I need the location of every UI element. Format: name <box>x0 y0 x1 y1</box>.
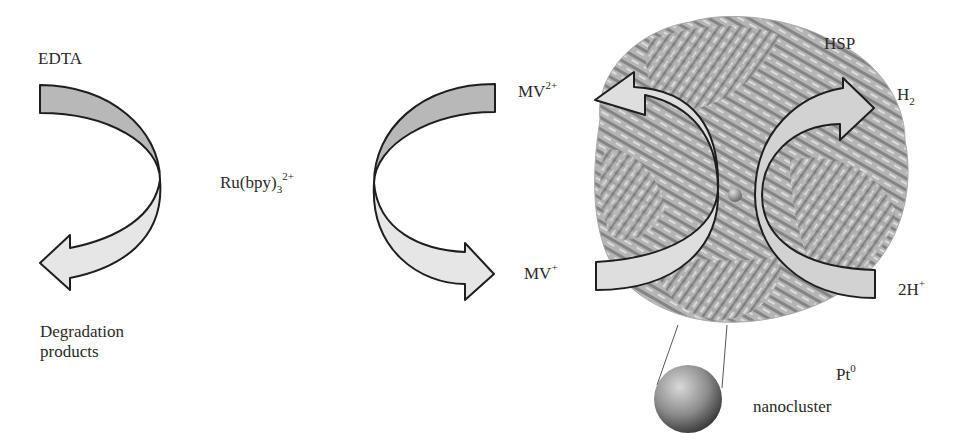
hsp-label: HSP <box>824 34 855 54</box>
pt-main: Pt <box>836 365 850 384</box>
mv2-label: MV2+ <box>518 82 557 102</box>
pt-superscript: 0 <box>850 362 856 374</box>
twoh-superscript: + <box>919 277 925 289</box>
edta-arrow <box>40 85 160 290</box>
degradation-line1: Degradation <box>40 322 124 341</box>
h2-subscript: 2 <box>909 95 915 107</box>
center-sphere <box>728 188 742 202</box>
h2-label: H2 <box>897 85 915 105</box>
nanocluster-label: nanocluster <box>753 397 831 417</box>
mv1-superscript: + <box>551 261 557 273</box>
reaction-diagram <box>0 0 967 448</box>
pt0-label: Pt0 <box>836 365 856 385</box>
mv1-label: MV+ <box>524 264 558 284</box>
degradation-products-label: Degradation products <box>40 322 124 361</box>
mv2-superscript: 2+ <box>545 79 557 91</box>
edta-label: EDTA <box>38 49 82 69</box>
ru-superscript: 2+ <box>282 170 294 182</box>
mv2-main: MV <box>518 82 545 101</box>
pt-nanocluster-sphere <box>654 365 722 433</box>
twoh-main: 2H <box>898 280 919 299</box>
mv1-main: MV <box>524 264 551 283</box>
two-h-plus-label: 2H+ <box>898 280 925 300</box>
ru-subscript: 3 <box>277 183 283 195</box>
ru-main: Ru(bpy) <box>220 173 277 192</box>
ru-bpy-label: Ru(bpy)32+ <box>220 173 294 193</box>
mv-arrow <box>374 84 495 300</box>
h2-main: H <box>897 85 909 104</box>
degradation-line2: products <box>40 342 99 361</box>
